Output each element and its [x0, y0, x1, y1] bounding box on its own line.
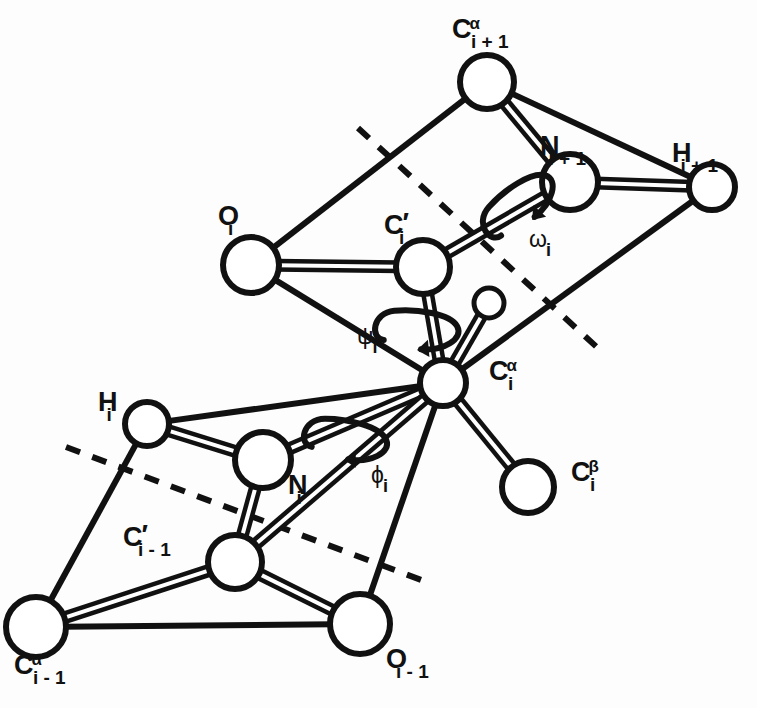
- atom-h-i: [125, 402, 169, 446]
- label-c-alpha-i-plus-1: Cαi + 1: [452, 14, 519, 47]
- atom-c-alpha-i: [420, 360, 466, 406]
- label-o-i: Oi: [218, 203, 244, 234]
- atom-o-i: [223, 237, 279, 293]
- atom-n-i: [235, 432, 291, 488]
- bond-n-i-to-cp-im1: [241, 484, 256, 539]
- peptide-backbone-diagram: Cαi + 1Ni + 1Hi + 1OiC′iCαiCβiHiNiC′i - …: [0, 0, 757, 708]
- label-c-prime-i: C′i: [384, 212, 415, 243]
- bond-o-i-to-ca-i: [272, 278, 426, 372]
- bond-cp-im1-to-o-im1: [257, 573, 336, 612]
- bond-o-i-to-ca-ip1: [271, 97, 468, 250]
- label-c-alpha-i: Cαi: [489, 356, 524, 389]
- label-c-prime-i-minus-1: C′i - 1: [123, 524, 182, 555]
- label-c-alpha-i-minus-1: Cαi - 1: [14, 650, 77, 683]
- label-psi-i: ψi: [357, 325, 378, 353]
- bond-ca-im1-to-o-im1: [63, 624, 333, 627]
- atom-o-i-minus-1: [330, 594, 390, 654]
- label-h-i: Hi: [98, 389, 123, 420]
- label-n-i-plus-1: Ni + 1: [540, 133, 597, 164]
- label-n-i: Ni: [288, 472, 313, 503]
- label-c-beta-i: Cβi: [571, 457, 606, 490]
- label-omega-i: ωi: [529, 228, 552, 256]
- rotation-arrow-psi-i: [373, 307, 460, 359]
- bond-ca-i-to-cb-i: [456, 398, 514, 469]
- atom-c-prime-i: [396, 240, 450, 294]
- bond-cp-im1-to-ca-im1: [62, 569, 213, 618]
- atom-h-alpha-i: [474, 288, 504, 318]
- atom-c-prime-i-minus-1: [208, 535, 262, 589]
- label-phi-i: ϕi: [371, 464, 389, 492]
- label-o-i-minus-1: Oi - 1: [386, 646, 440, 677]
- atom-c-beta-i: [502, 461, 554, 513]
- atom-c-alpha-i-plus-1: [460, 55, 514, 109]
- bond-n-i-to-h-i: [165, 430, 239, 453]
- atom-c-alpha-i-minus-1: [6, 597, 66, 657]
- molecule-canvas: [0, 0, 757, 708]
- bond-cp-i-to-o-i: [276, 265, 399, 266]
- bond-n-ip1-to-h-ip1: [595, 183, 692, 186]
- label-h-i-plus-1: Hi + 1: [672, 140, 729, 171]
